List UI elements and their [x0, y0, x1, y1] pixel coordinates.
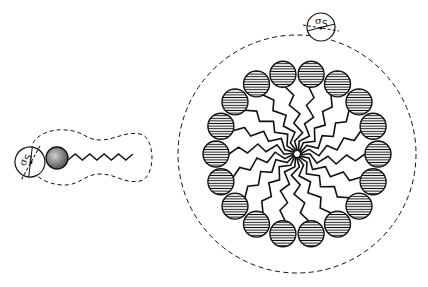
micelle-head: [325, 211, 351, 237]
micelle-head: [270, 221, 296, 247]
micelle-head: [203, 141, 229, 167]
micelle-tail: [245, 110, 296, 151]
micelle-tail: [233, 128, 295, 153]
micelle-tail: [299, 156, 361, 181]
micelle-head: [244, 211, 270, 237]
micelle-core: [295, 152, 299, 156]
surfactant-monomer: σS: [9, 130, 152, 185]
micelle-head: [360, 113, 386, 139]
solvent-sigma-label: σ: [315, 15, 322, 26]
solvent-sigma-subscript: S: [322, 19, 328, 29]
micelle-tail: [298, 157, 332, 213]
micelle-head: [222, 193, 248, 219]
micelle-head: [298, 221, 324, 247]
micelle-head: [270, 61, 296, 87]
micelle-head: [346, 89, 372, 115]
monomer-head: [46, 147, 68, 169]
micelle-diagram: σS σS: [0, 0, 428, 287]
solvent-circle-micelle: σS: [303, 13, 339, 41]
micelle-head: [298, 61, 324, 87]
micelle-tail: [263, 95, 297, 151]
micelle: σS: [178, 13, 416, 273]
micelle-head: [360, 169, 386, 195]
micelle-tail: [299, 157, 350, 198]
monomer-tail: [68, 154, 133, 160]
micelle-head: [208, 169, 234, 195]
micelle-head: [346, 193, 372, 219]
micelle-head: [325, 71, 351, 97]
micelle-head: [365, 141, 391, 167]
micelle-head: [244, 71, 270, 97]
micelle-head: [222, 89, 248, 115]
solvent-circle-monomer: σS: [9, 139, 50, 185]
micelle-head: [208, 113, 234, 139]
